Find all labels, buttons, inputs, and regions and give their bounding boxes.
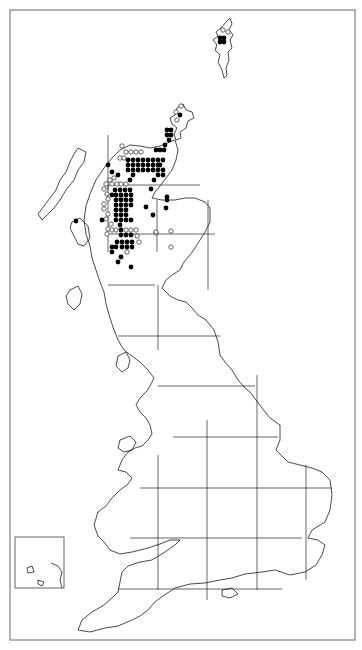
filled-record-dot	[124, 213, 129, 218]
filled-record-dot	[163, 143, 168, 148]
filled-record-dot	[136, 158, 141, 163]
open-record-dot	[109, 222, 113, 226]
open-record-dot	[129, 228, 133, 232]
filled-record-dot	[131, 158, 136, 163]
filled-record-dot	[124, 193, 129, 198]
filled-record-dot	[114, 198, 119, 203]
filled-record-dot	[158, 163, 163, 168]
filled-record-dot	[126, 168, 131, 173]
filled-record-dot	[146, 163, 151, 168]
filled-record-dot	[119, 203, 124, 208]
filled-record-dot	[146, 168, 151, 173]
open-record-dot	[134, 150, 138, 154]
open-record-dot	[124, 150, 128, 154]
filled-record-dot	[119, 228, 124, 233]
filled-record-dot	[119, 208, 124, 213]
open-record-dot	[105, 232, 109, 236]
filled-record-dot	[156, 158, 161, 163]
filled-record-dot	[100, 218, 105, 223]
open-record-dot	[134, 228, 138, 232]
coastline-orkney	[170, 104, 194, 140]
coastline-shetland	[213, 18, 233, 78]
filled-record-dot	[146, 158, 151, 163]
filled-record-dot	[165, 195, 170, 200]
filled-record-dot	[110, 250, 115, 255]
filled-record-dot	[129, 203, 134, 208]
filled-record-dot	[118, 223, 123, 228]
filled-record-dot	[169, 128, 174, 133]
filled-record-dot	[149, 187, 154, 192]
filled-record-dot	[124, 218, 129, 223]
coastline-layer	[27, 18, 332, 632]
open-record-dot	[124, 228, 128, 232]
filled-record-dot	[110, 170, 115, 175]
open-record-dot	[104, 217, 108, 221]
open-record-dot	[135, 234, 139, 238]
filled-record-dot	[222, 40, 227, 45]
open-record-dot	[137, 240, 141, 244]
filled-record-dot	[119, 218, 124, 223]
filled-record-dot	[169, 133, 174, 138]
filled-record-dot	[164, 206, 169, 211]
filled-record-dot	[119, 255, 124, 260]
filled-record-dot	[129, 265, 134, 270]
filled-record-dot	[114, 213, 119, 218]
open-record-dot	[106, 212, 110, 216]
filled-record-dot	[141, 163, 146, 168]
filled-record-dot	[156, 168, 161, 173]
filled-record-dot	[106, 163, 111, 168]
filled-record-dot	[151, 163, 156, 168]
open-record-dot	[104, 182, 108, 186]
filled-record-dot	[156, 173, 161, 178]
open-record-dot	[169, 229, 173, 233]
filled-record-dot	[141, 168, 146, 173]
filled-record-dot	[131, 168, 136, 173]
filled-record-dot	[131, 173, 136, 178]
filled-record-dot	[130, 240, 135, 245]
filled-record-dot	[124, 208, 129, 213]
filled-record-dot	[118, 188, 123, 193]
filled-record-dot	[126, 158, 131, 163]
filled-record-dot	[114, 203, 119, 208]
filled-record-dot	[74, 219, 79, 224]
filled-record-dot	[161, 173, 166, 178]
filled-record-dot	[128, 178, 133, 183]
filled-record-dot	[123, 188, 128, 193]
filled-record-dot	[124, 233, 129, 238]
filled-record-dot	[131, 163, 136, 168]
open-record-dot	[102, 187, 106, 191]
filled-record-dot	[119, 193, 124, 198]
filled-record-dot	[129, 198, 134, 203]
open-record-dot	[226, 30, 230, 34]
filled-record-dot	[129, 193, 134, 198]
coastline-hebrides	[38, 148, 86, 220]
open-record-dot	[125, 250, 129, 254]
filled-record-dot	[141, 158, 146, 163]
filled-record-dot	[161, 168, 166, 173]
filled-record-dot	[151, 213, 156, 218]
filled-record-dot	[120, 240, 125, 245]
filled-record-dot	[162, 148, 167, 153]
open-record-dot	[169, 245, 173, 249]
open-record-dot	[154, 230, 158, 234]
open-record-dot	[102, 202, 106, 206]
open-record-dot	[174, 110, 178, 114]
coastline-islay-arran	[66, 286, 82, 310]
open-record-dot	[106, 197, 110, 201]
grid-layer	[108, 135, 332, 600]
open-record-dot	[105, 192, 109, 196]
filled-record-dot	[116, 260, 121, 265]
filled-record-dot	[119, 198, 124, 203]
open-record-dot	[124, 182, 128, 186]
open-record-dot	[110, 182, 114, 186]
filled-record-dot	[119, 213, 124, 218]
filled-record-dot	[114, 193, 119, 198]
map-canvas	[0, 0, 362, 650]
open-record-dot	[129, 150, 133, 154]
coastline-isle-of-wight	[222, 588, 238, 598]
filled-record-dot	[136, 168, 141, 173]
open-record-dot	[114, 228, 118, 232]
filled-record-dot	[151, 168, 156, 173]
filled-record-dot	[119, 233, 124, 238]
filled-record-dot	[128, 188, 133, 193]
